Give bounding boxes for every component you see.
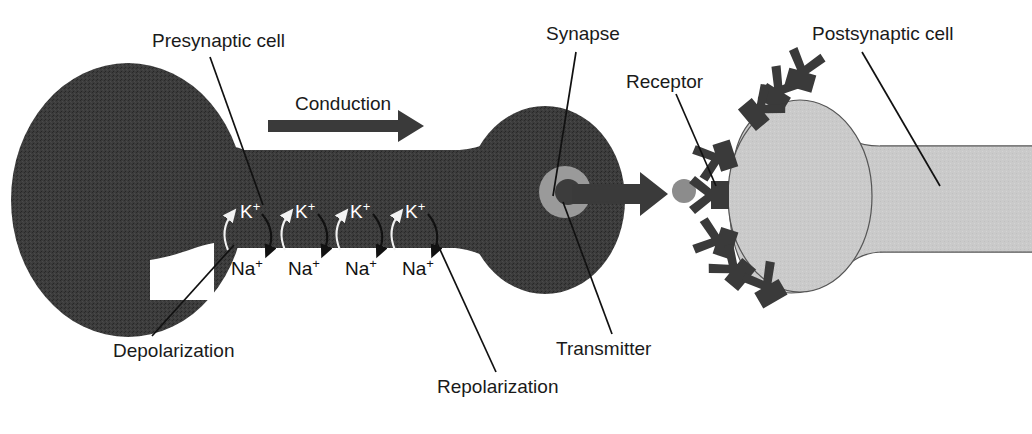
postsynaptic-cell-label: Postsynaptic cell: [812, 23, 954, 44]
diagram-canvas: Conduction K+ K+ K+ K+ Na+ Na+ Na+ Na+: [0, 0, 1032, 434]
sodium-label-1: Na+: [231, 256, 263, 279]
receptor-label: Receptor: [626, 71, 704, 92]
transmitter-label: Transmitter: [556, 338, 652, 359]
conduction-label: Conduction: [295, 93, 391, 114]
sodium-label-4: Na+: [402, 256, 434, 279]
repolarization-label: Repolarization: [437, 376, 558, 397]
depolarization-label: Depolarization: [113, 340, 234, 361]
sodium-label-2: Na+: [288, 256, 320, 279]
sodium-label-3: Na+: [345, 256, 377, 279]
synapse-label: Synapse: [546, 23, 620, 44]
synapse-diagram: Conduction K+ K+ K+ K+ Na+ Na+ Na+ Na+: [0, 0, 1032, 434]
conduction-arrow: [268, 110, 424, 142]
receptor-leader: [676, 94, 716, 186]
presynaptic-cell-label: Presynaptic cell: [152, 30, 285, 51]
